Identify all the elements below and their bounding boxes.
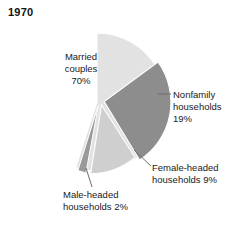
slice-label-female-headed: Female-headed households 9% [152, 162, 219, 186]
slice-label-female-line2: households 9% [152, 174, 219, 186]
slice-label-female-line1: Female-headed [152, 162, 219, 174]
slice-label-nonfamily-value: 19% [173, 113, 222, 125]
slice-label-nonfamily-line2: households [173, 101, 222, 113]
slice-label-nonfamily-line1: Nonfamily [173, 89, 222, 101]
slice-label-male-headed: Male-headed households 2% [63, 189, 128, 213]
slice-label-married-couples: Married couples 70% [47, 51, 115, 87]
slice-label-married-line1: Married [47, 51, 115, 63]
pie-chart-figure: 1970 Married couples 70% Nonfamily house… [0, 0, 243, 230]
slice-label-nonfamily: Nonfamily households 19% [173, 89, 222, 125]
slice-label-married-line2: couples [47, 63, 115, 75]
slice-label-married-value: 70% [47, 75, 115, 87]
slice-label-male-line2: households 2% [63, 201, 128, 213]
slice-label-male-line1: Male-headed [63, 189, 128, 201]
